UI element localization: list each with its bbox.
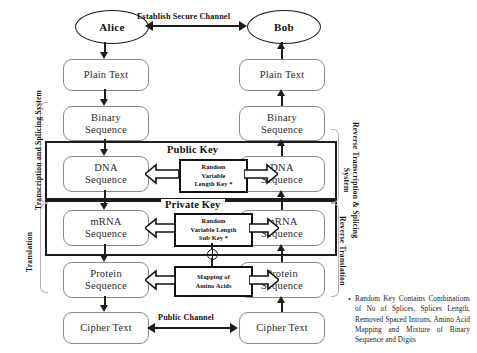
block-arrow-dna-right [244, 163, 278, 185]
side-label-rts-line1: Reverse Transcription & Splicing [351, 122, 360, 238]
moaa-line1: Mapping of [197, 273, 230, 281]
side-label-transcription-and-splicing-system: Transcription and Splicing System [34, 90, 43, 210]
center-box-random-variable-length-sub-key: Random Variable Length Sub Key * [174, 213, 253, 247]
flow-left-arrow-1 [100, 52, 108, 59]
flow-right-arrow-2 [277, 89, 285, 96]
public-key-title: Public Key [163, 144, 222, 155]
public-channel-line [155, 327, 232, 329]
secure-channel-line [152, 25, 242, 27]
bracket-right-reverse-transcription [331, 129, 339, 203]
flow-right-arrow-6 [277, 296, 285, 303]
rvlk-line3: Length Key * [194, 180, 232, 188]
node-right-cipher-line1: Cipher Text [256, 322, 308, 334]
block-arrow-protein-right [249, 269, 279, 291]
node-right-cipher-text: Cipher Text [239, 312, 325, 344]
footnote-random-key: • Random Key Contains Combinations of No… [355, 294, 470, 346]
secure-channel-arrow-left [145, 21, 153, 31]
footnote-text: Random Key Contains Combinations of No o… [355, 294, 470, 344]
flow-right-arrow-1 [277, 42, 285, 49]
footnote-bullet-icon: • [348, 294, 351, 305]
node-left-protein-sequence: Protein Sequence [63, 262, 149, 298]
flow-left-arrow-5 [100, 255, 108, 262]
side-label-translation: Translation [25, 232, 34, 272]
node-left-protein-line1: Protein [90, 268, 122, 280]
node-left-plain-text: Plain Text [63, 59, 149, 91]
node-right-binary-line1: Binary [267, 112, 297, 124]
secure-channel-arrow-right [239, 21, 247, 31]
node-right-binary-sequence: Binary Sequence [239, 106, 325, 141]
rvlsk-line3: Sub Key * [199, 234, 228, 242]
private-key-title: Private Key [161, 199, 225, 210]
node-left-binary-sequence: Binary Sequence [63, 106, 149, 141]
node-left-protein-line2: Sequence [85, 280, 127, 292]
rvlsk-line2: Variable Length [191, 226, 237, 234]
party-bob: Bob [247, 10, 321, 44]
node-left-plain-text-line1: Plain Text [84, 69, 129, 81]
rvlk-line1: Random [201, 163, 225, 171]
side-label-reverse-translation: Reverse Translation [338, 216, 347, 286]
block-arrow-protein-left [145, 269, 175, 291]
flow-left-arrow-2 [100, 99, 108, 106]
block-arrow-mrna-left [145, 217, 175, 239]
bracket-left-translation [40, 203, 48, 293]
secure-channel-label: Establish Secure Channel [137, 12, 230, 21]
flow-right-binary-to-plain [281, 96, 283, 106]
flow-left-protein-to-cipher [104, 296, 106, 305]
public-channel-arrow-left [147, 323, 155, 333]
party-alice-label: Alice [99, 21, 124, 33]
party-bob-label: Bob [274, 21, 294, 33]
node-right-plain-text: Plain Text [239, 59, 325, 91]
public-channel-label: Public Channel [158, 313, 214, 322]
block-arrow-dna-left [145, 163, 179, 185]
block-arrow-mrna-right [249, 217, 279, 239]
node-left-cipher-line1: Cipher Text [80, 322, 132, 334]
node-left-binary-line2: Sequence [85, 124, 127, 136]
node-right-binary-line2: Sequence [261, 124, 303, 136]
flow-right-cipher-to-protein [281, 303, 283, 312]
node-left-cipher-text: Cipher Text [63, 312, 149, 344]
xor-line-lower [211, 258, 213, 266]
diagram-canvas: Alice Bob Establish Secure Channel Plain… [0, 0, 477, 353]
node-left-binary-line1: Binary [91, 112, 121, 124]
flow-left-arrow-6 [100, 305, 108, 312]
public-channel-arrow-right [230, 323, 238, 333]
flow-left-plain-to-binary [104, 89, 106, 99]
rvlsk-line1: Random [201, 217, 225, 225]
node-right-plain-text-line1: Plain Text [260, 69, 305, 81]
center-box-random-variable-length-key: Random Variable Length Key * [179, 159, 248, 193]
moaa-line2: Amino Acids [195, 282, 231, 290]
rvlk-line2: Variable [202, 172, 226, 180]
side-label-rts-line2: System [342, 168, 351, 193]
center-box-mapping-of-amino-acids: Mapping of Amino Acids [174, 266, 253, 297]
